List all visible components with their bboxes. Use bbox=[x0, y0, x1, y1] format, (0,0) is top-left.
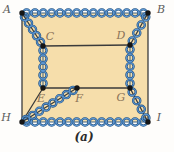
node-label-I: I bbox=[156, 111, 162, 124]
node-C bbox=[40, 43, 45, 48]
node-D bbox=[127, 42, 132, 47]
filled-region-layer bbox=[22, 13, 148, 122]
spring-A-B bbox=[22, 9, 148, 16]
spring-network-diagram: ABCDEFGHI (a) bbox=[0, 0, 174, 152]
node-label-A: A bbox=[2, 3, 11, 16]
node-label-B: B bbox=[156, 3, 165, 16]
node-A bbox=[19, 10, 24, 15]
node-label-G: G bbox=[117, 91, 126, 104]
node-label-D: D bbox=[116, 29, 126, 42]
node-label-H: H bbox=[0, 111, 11, 124]
node-label-E: E bbox=[36, 92, 45, 105]
node-label-C: C bbox=[46, 30, 55, 43]
node-H bbox=[19, 119, 24, 124]
node-G bbox=[127, 85, 132, 90]
node-E bbox=[40, 85, 45, 90]
spring-network-figure: ABCDEFGHI (a) bbox=[0, 0, 174, 152]
node-I bbox=[145, 119, 150, 124]
node-label-F: F bbox=[74, 92, 83, 105]
node-B bbox=[145, 10, 150, 15]
figure-caption: (a) bbox=[74, 130, 93, 144]
spring-D-G bbox=[126, 45, 133, 88]
tan-region bbox=[22, 13, 148, 122]
spring-H-I bbox=[22, 118, 148, 125]
spring-C-E bbox=[39, 46, 46, 88]
node-F bbox=[74, 85, 79, 90]
